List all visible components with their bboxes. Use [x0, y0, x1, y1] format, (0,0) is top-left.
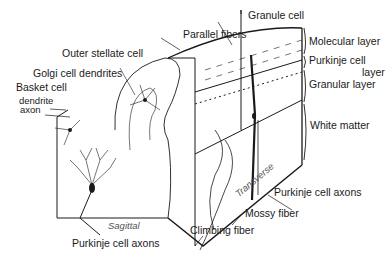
golgi-cell-dendrites — [130, 85, 160, 110]
folium-outline — [115, 58, 180, 218]
label-golgi-cell-dendrites: Golgi cell dendrites — [33, 68, 122, 79]
purkinje-soma-transverse — [252, 113, 256, 119]
label-mossy-fiber: Mossy fiber — [245, 208, 299, 219]
label-outer-stellate-cell: Outer stellate cell — [62, 48, 143, 59]
label-basket-axon: axon — [20, 104, 41, 115]
label-climbing-fiber: Climbing fiber — [190, 225, 254, 236]
brace-purkinje — [304, 56, 306, 68]
label-granule-cell: Granule cell — [248, 10, 304, 21]
parallel-fiber-dash — [205, 50, 302, 80]
folium-inner — [129, 88, 157, 150]
brace-granular — [304, 70, 306, 102]
label-purkinje-cell-layer-2: layer — [362, 67, 385, 78]
label-purkinje-cell-axons-right: Purkinje cell axons — [274, 187, 362, 198]
purkinje-axon — [80, 190, 100, 235]
brace-molecular — [304, 28, 306, 54]
label-purkinje-cell-axons-bottom: Purkinje cell axons — [72, 238, 160, 249]
purkinje-dendrites — [70, 148, 116, 185]
leader-basket-dendrite — [50, 109, 66, 110]
label-granular-layer: Granular layer — [309, 79, 376, 90]
leader-stellate — [161, 38, 180, 50]
label-purkinje-cell-layer: Purkinje cell — [309, 55, 366, 66]
basket-cell-dendrite — [55, 120, 80, 145]
label-white-matter: White matter — [310, 120, 370, 131]
purkinje-soma — [89, 183, 95, 193]
purkinje-boundary — [195, 72, 302, 104]
basket-cell-soma — [68, 128, 72, 132]
golgi-cell-soma — [143, 98, 147, 102]
label-parallel-fibers: Parallel fibers — [183, 29, 247, 40]
parallel-fiber-dash — [205, 40, 302, 70]
label-molecular-layer: Molecular layer — [309, 36, 380, 47]
brace-white-matter — [304, 104, 306, 160]
label-sagittal-plane: Sagittal — [108, 220, 140, 231]
granular-boundary — [195, 100, 302, 154]
label-basket-cell: Basket cell — [16, 82, 67, 93]
mossy-fiber — [210, 130, 223, 230]
molecular-boundary — [195, 60, 302, 92]
